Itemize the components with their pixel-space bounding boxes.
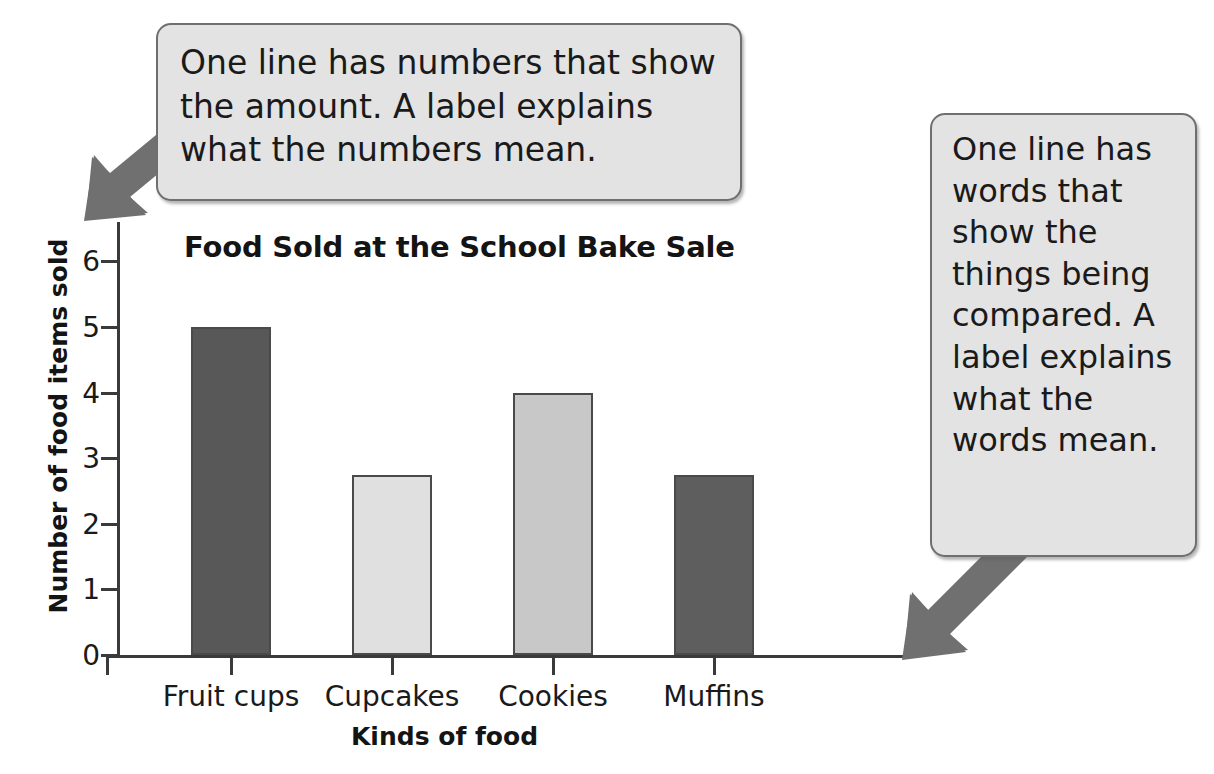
callout-left-text: One line has numbers that show the amoun… — [180, 43, 716, 169]
y-axis-line — [117, 222, 120, 658]
callout-right-text: One line has words that show the things … — [952, 130, 1172, 459]
bar — [674, 475, 754, 655]
y-tick-mark — [101, 654, 118, 657]
bar-chart-instructional-figure: Food Sold at the School Bake Sale 012345… — [0, 0, 1214, 774]
x-tick-label: Fruit cups — [163, 680, 300, 713]
y-tick-mark — [101, 457, 118, 460]
x-tick-mark-origin — [106, 657, 109, 675]
x-tick-mark — [713, 657, 716, 675]
y-tick-label: 0 — [60, 639, 100, 672]
x-tick-label: Cookies — [498, 680, 608, 713]
callout-right: One line has words that show the things … — [930, 113, 1197, 557]
y-tick-mark — [101, 326, 118, 329]
x-tick-label: Cupcakes — [325, 680, 460, 713]
x-tick-label: Muffins — [663, 680, 764, 713]
y-tick-mark — [101, 260, 118, 263]
x-axis-label: Kinds of food — [351, 722, 681, 751]
y-tick-mark — [101, 588, 118, 591]
callout-left: One line has numbers that show the amoun… — [156, 23, 742, 201]
x-axis-line — [106, 655, 918, 658]
bar — [513, 393, 593, 655]
bar — [191, 327, 271, 655]
y-axis-label: Number of food items sold — [44, 284, 73, 614]
x-tick-mark — [391, 657, 394, 675]
x-tick-mark — [552, 657, 555, 675]
x-tick-mark — [230, 657, 233, 675]
chart-title: Food Sold at the School Bake Sale — [184, 230, 784, 264]
y-tick-mark — [101, 523, 118, 526]
y-tick-mark — [101, 392, 118, 395]
bar — [352, 475, 432, 655]
